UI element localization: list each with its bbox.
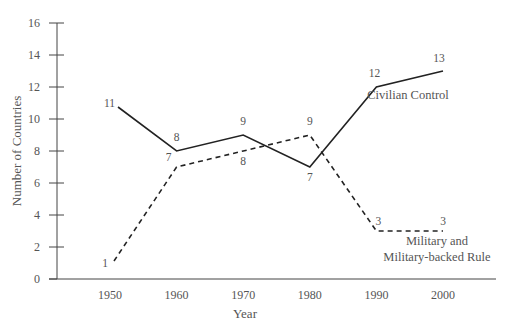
x-tick-label: 1980 [298, 288, 322, 302]
y-tick-label: 6 [34, 176, 40, 190]
x-tick-label: 1970 [231, 288, 255, 302]
x-tick-label: 1950 [98, 288, 122, 302]
point-value-label: 9 [240, 115, 246, 127]
y-tick-label: 14 [28, 48, 40, 62]
y-tick-label: 2 [34, 240, 40, 254]
y-tick-labels: 0246810121416 [28, 16, 40, 286]
point-value-label: 12 [369, 67, 381, 79]
point-value-label: 1 [102, 257, 108, 269]
y-axis-label: Number of Countries [9, 96, 24, 206]
point-value-label: 7 [307, 171, 313, 183]
line-chart: 0246810121416 195019601970198019902000 1… [0, 0, 506, 325]
y-tick-label: 12 [28, 80, 40, 94]
point-value-label: 11 [104, 97, 115, 109]
point-value-label: 7 [166, 151, 172, 163]
x-tick-label: 2000 [431, 288, 455, 302]
point-value-label: 13 [433, 52, 445, 64]
legend-civilian-control: Civilian Control [367, 88, 449, 102]
y-tick-label: 16 [28, 16, 40, 30]
military-rule-line [114, 135, 443, 261]
y-tick-label: 8 [34, 144, 40, 158]
point-value-label: 9 [307, 115, 313, 127]
legend-military-line1: Military and [406, 234, 469, 248]
point-value-label: 8 [174, 131, 180, 143]
point-value-label: 8 [240, 155, 246, 167]
x-tick-label: 1960 [165, 288, 189, 302]
y-tick-label: 4 [34, 208, 40, 222]
point-value-label: 3 [376, 215, 382, 227]
x-tick-label: 1990 [364, 288, 388, 302]
legend-military-line2: Military-backed Rule [383, 250, 491, 264]
x-axis-label: Year [233, 306, 258, 321]
x-tick-labels: 195019601970198019902000 [98, 288, 455, 302]
point-value-label: 3 [440, 215, 446, 227]
y-tick-label: 0 [34, 272, 40, 286]
data-point-labels: 118971213178933 [102, 52, 446, 269]
y-tick-label: 10 [28, 112, 40, 126]
